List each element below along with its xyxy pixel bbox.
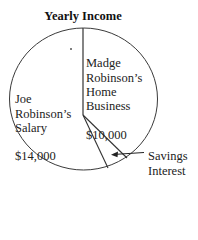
slice-label-joe-value: $14,000 [15,149,71,163]
slice-label-madge-name: Madge Robinson’s Home Business [86,56,142,113]
slice-label-savings-name: Savings Interest [148,149,188,178]
dot-mark [70,48,72,50]
slice-label-madge: Madge Robinson’s Home Business $10,000 [86,42,142,156]
slice-label-joe: Joe Robinson’s Salary $14,000 [15,78,71,178]
slice-label-savings: Savings Interest $1000 [148,135,188,187]
slice-label-joe-name: Joe Robinson’s Salary [15,92,71,135]
slice-label-madge-value: $10,000 [86,128,142,142]
